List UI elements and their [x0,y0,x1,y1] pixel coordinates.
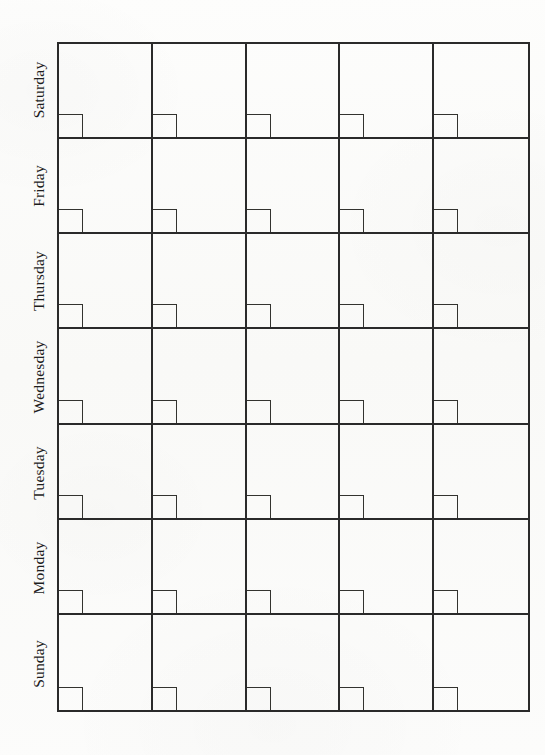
date-number-box[interactable] [153,687,177,710]
calendar-day-cell[interactable] [434,520,528,615]
calendar-day-cell[interactable] [153,425,247,520]
date-number-box[interactable] [59,304,83,327]
calendar-day-cell[interactable] [153,615,247,710]
date-number-box[interactable] [153,209,177,232]
calendar-day-cell[interactable] [340,139,434,234]
weekday-label-sunday: Sunday [30,640,48,688]
date-number-box[interactable] [340,495,364,518]
date-number-box[interactable] [247,114,271,137]
date-number-box[interactable] [434,590,458,613]
date-number-box[interactable] [340,590,364,613]
weekday-label-saturday: Saturday [30,62,48,119]
weekday-label-thursday: Thursday [30,251,48,311]
date-number-box[interactable] [434,209,458,232]
calendar-day-cell[interactable] [340,234,434,329]
weekday-label-column: Saturday Friday Thursday Wednesday Tuesd… [22,42,56,712]
date-number-box[interactable] [59,590,83,613]
calendar-day-cell[interactable] [434,329,528,424]
calendar-day-cell[interactable] [340,520,434,615]
calendar-day-cell[interactable] [247,615,341,710]
date-number-box[interactable] [59,209,83,232]
calendar-day-cell[interactable] [153,520,247,615]
calendar-day-cell[interactable] [340,329,434,424]
weekday-label-slot: Wednesday [22,329,56,425]
calendar-day-cell[interactable] [434,234,528,329]
date-number-box[interactable] [340,400,364,423]
date-number-box[interactable] [59,495,83,518]
weekday-label-wednesday: Wednesday [30,341,48,414]
date-number-box[interactable] [340,304,364,327]
date-number-box[interactable] [153,495,177,518]
calendar-day-cell[interactable] [59,329,153,424]
calendar-sheet: Saturday Friday Thursday Wednesday Tuesd… [0,0,545,755]
calendar-day-cell[interactable] [340,44,434,139]
weekday-label-monday: Monday [30,542,48,595]
calendar-day-cell[interactable] [153,329,247,424]
weekday-label-slot: Monday [22,521,56,617]
calendar-day-cell[interactable] [247,234,341,329]
weekday-label-slot: Saturday [22,42,56,138]
calendar-day-cell[interactable] [247,139,341,234]
date-number-box[interactable] [434,304,458,327]
calendar-day-cell[interactable] [247,425,341,520]
date-number-box[interactable] [59,400,83,423]
date-number-box[interactable] [247,209,271,232]
calendar-day-cell[interactable] [59,425,153,520]
date-number-box[interactable] [434,687,458,710]
date-number-box[interactable] [247,687,271,710]
weekday-label-slot: Thursday [22,233,56,329]
date-number-box[interactable] [434,114,458,137]
date-number-box[interactable] [340,114,364,137]
date-number-box[interactable] [434,400,458,423]
calendar-day-cell[interactable] [59,520,153,615]
date-number-box[interactable] [340,687,364,710]
weekday-label-slot: Tuesday [22,425,56,521]
date-number-box[interactable] [434,495,458,518]
calendar-day-cell[interactable] [434,139,528,234]
calendar-day-cell[interactable] [247,520,341,615]
calendar-day-cell[interactable] [59,615,153,710]
calendar-day-cell[interactable] [340,425,434,520]
date-number-box[interactable] [153,400,177,423]
date-number-box[interactable] [247,304,271,327]
date-number-box[interactable] [247,400,271,423]
date-number-box[interactable] [153,304,177,327]
date-number-box[interactable] [247,495,271,518]
weekday-label-friday: Friday [30,165,48,207]
date-number-box[interactable] [153,114,177,137]
date-number-box[interactable] [247,590,271,613]
date-number-box[interactable] [153,590,177,613]
calendar-day-cell[interactable] [340,615,434,710]
date-number-box[interactable] [340,209,364,232]
calendar-day-cell[interactable] [434,44,528,139]
calendar-day-cell[interactable] [247,44,341,139]
calendar-day-cell[interactable] [434,425,528,520]
calendar-day-cell[interactable] [434,615,528,710]
date-number-box[interactable] [59,687,83,710]
weekday-label-tuesday: Tuesday [30,446,48,499]
calendar-day-cell[interactable] [153,234,247,329]
calendar-day-cell[interactable] [59,234,153,329]
calendar-day-cell[interactable] [247,329,341,424]
date-number-box[interactable] [59,114,83,137]
weekday-label-slot: Sunday [22,616,56,712]
calendar-day-cell[interactable] [153,139,247,234]
calendar-grid [57,42,530,712]
weekday-label-slot: Friday [22,138,56,234]
calendar-day-cell[interactable] [59,139,153,234]
calendar-day-cell[interactable] [153,44,247,139]
calendar-day-cell[interactable] [59,44,153,139]
